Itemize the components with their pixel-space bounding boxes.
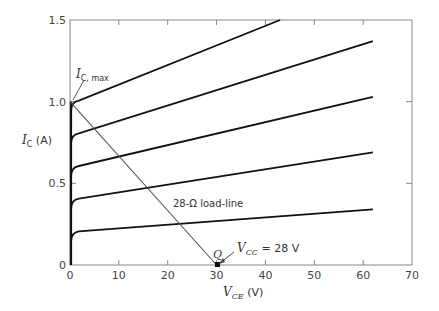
axis-ticks: 01020304050607000.51.01.5 xyxy=(49,14,420,282)
y-tick-label: 0.5 xyxy=(49,177,67,190)
x-tick-label: 20 xyxy=(161,269,175,282)
load-line-label: 28-Ω load-line xyxy=(173,198,243,209)
y-tick-label: 0 xyxy=(59,259,66,272)
q-point-marker xyxy=(215,262,220,267)
x-tick-label: 0 xyxy=(67,269,74,282)
x-tick-label: 40 xyxy=(258,269,272,282)
x-tick-label: 30 xyxy=(210,269,224,282)
y-axis-label: IC (A) xyxy=(21,133,52,149)
x-tick-label: 50 xyxy=(307,269,321,282)
collector-curves xyxy=(70,20,373,265)
x-tick-label: 70 xyxy=(405,269,419,282)
x-tick-label: 10 xyxy=(112,269,126,282)
q-point-label: Q xyxy=(213,248,222,261)
x-tick-label: 60 xyxy=(356,269,370,282)
icmax-label: IC, max xyxy=(75,67,109,83)
y-tick-label: 1.0 xyxy=(49,96,67,109)
transistor-characteristic-chart: 01020304050607000.51.01.5 IC (A) VCE (V)… xyxy=(0,0,439,311)
icmax-pointer xyxy=(73,80,84,100)
collector-curve xyxy=(71,209,373,242)
load-line xyxy=(70,102,217,265)
collector-curve xyxy=(71,97,373,177)
collector-curve xyxy=(71,41,373,144)
y-tick-label: 1.5 xyxy=(49,14,67,27)
x-axis-label: VCE (V) xyxy=(223,285,263,301)
collector-curve xyxy=(71,20,280,111)
vcc-label: VCC = 28 V xyxy=(237,241,300,257)
